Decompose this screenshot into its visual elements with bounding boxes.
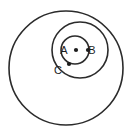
point-label-A: A [60,44,68,56]
point-label-B: B [88,44,95,56]
circles-diagram-canvas: A B C [0,0,132,135]
point-label-C: C [54,64,62,76]
geometry-figure: A B C [0,0,132,135]
point-dot-A [74,48,78,52]
large-outer-circle [9,11,123,125]
point-dot-C [67,62,71,66]
